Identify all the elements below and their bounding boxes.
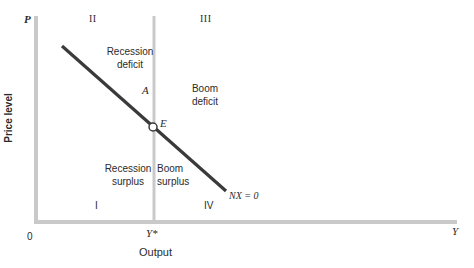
region-boom-surplus-line1: Boom — [157, 162, 203, 175]
quadrant-iv-label: IV — [204, 200, 213, 212]
x-axis-symbol: Y — [452, 225, 458, 237]
region-recession-deficit: Recession deficit — [100, 45, 160, 71]
point-a-label: A — [142, 84, 149, 96]
quadrant-iii-label: III — [200, 13, 212, 25]
net-exports-diagram: P Y 0 Y* Output Price level II III I IV … — [0, 0, 474, 268]
region-recession-deficit-line2: deficit — [100, 58, 160, 71]
quadrant-i-label: I — [95, 200, 98, 212]
region-recession-surplus-line1: Recession — [100, 162, 156, 175]
region-boom-surplus: Boom surplus — [157, 162, 203, 188]
region-recession-deficit-line1: Recession — [100, 45, 160, 58]
region-recession-surplus-line2: surplus — [100, 175, 156, 188]
region-boom-surplus-line2: surplus — [157, 175, 203, 188]
origin-label: 0 — [27, 231, 33, 243]
quadrant-ii-label: II — [89, 13, 97, 25]
equilibrium-point-e — [149, 123, 157, 131]
point-e-label: E — [160, 117, 167, 129]
y-axis-label: Price level — [3, 87, 15, 149]
full-employment-label: Y* — [146, 227, 158, 239]
nx-zero-label: NX = 0 — [229, 190, 259, 202]
region-recession-surplus: Recession surplus — [100, 162, 156, 188]
y-axis-symbol: P — [24, 13, 31, 25]
region-boom-deficit-line2: deficit — [180, 95, 230, 108]
region-boom-deficit: Boom deficit — [180, 82, 230, 108]
region-boom-deficit-line1: Boom — [180, 82, 230, 95]
x-axis-label: Output — [139, 246, 172, 258]
diagram-graphics — [0, 0, 474, 268]
